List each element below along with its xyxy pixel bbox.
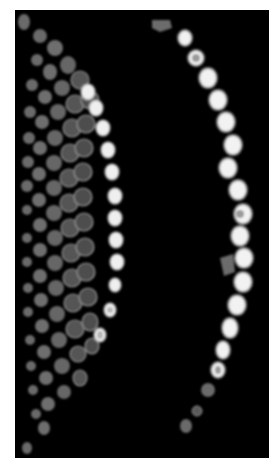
micrograph [0, 0, 274, 467]
